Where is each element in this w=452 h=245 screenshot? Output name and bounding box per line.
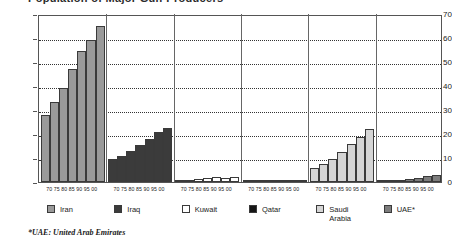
legend-swatch-icon — [316, 205, 324, 213]
bar — [50, 102, 59, 182]
bar — [396, 180, 405, 182]
x-tick-label-group: 70 75 80 85 90 95 00 — [376, 186, 440, 192]
bar — [298, 180, 307, 182]
bar — [377, 180, 386, 182]
bar — [279, 180, 288, 182]
y-tick-mark — [33, 183, 37, 184]
bar — [203, 178, 212, 182]
x-tick-label-group: 70 75 80 85 90 95 00 — [174, 186, 238, 192]
legend-label: Kuwait — [195, 205, 218, 214]
legend-item-kuwait[interactable]: Kuwait — [182, 205, 218, 214]
group-separator — [308, 14, 309, 182]
group-separator — [174, 14, 175, 182]
bar — [212, 177, 221, 182]
legend-item-iran[interactable]: Iran — [47, 205, 73, 214]
legend-label: Saudi Arabia — [329, 205, 351, 223]
bar — [145, 139, 154, 182]
bar — [288, 180, 297, 182]
bar — [163, 128, 172, 182]
bar — [347, 144, 356, 182]
bar — [221, 178, 230, 182]
y-tick-mark — [33, 15, 37, 16]
bar — [184, 180, 193, 182]
bar — [405, 179, 414, 182]
bar — [194, 179, 203, 182]
bar — [86, 40, 95, 182]
x-tick-label-group: 70 75 80 85 90 95 00 — [309, 186, 373, 192]
bar — [41, 115, 50, 182]
y-tick-mark — [33, 159, 37, 160]
y-tick-mark — [33, 87, 37, 88]
bar — [135, 145, 144, 182]
bar — [59, 88, 68, 182]
bar — [319, 164, 328, 182]
bar — [386, 180, 395, 182]
legend-item-saudi-arabia[interactable]: Saudi Arabia — [316, 205, 351, 223]
legend-swatch-icon — [114, 205, 122, 213]
plot-area — [38, 15, 442, 183]
bar — [68, 69, 77, 182]
page-title: Population of Major Gulf Producers — [28, 0, 223, 4]
bar — [154, 132, 163, 182]
bar — [328, 159, 337, 182]
group-separator — [106, 14, 107, 182]
bar — [270, 180, 279, 182]
y-tick-mark — [33, 135, 37, 136]
bar — [126, 151, 135, 182]
bar — [96, 26, 105, 182]
legend-swatch-icon — [182, 205, 190, 213]
group-separator — [376, 14, 377, 182]
bar — [365, 129, 374, 182]
legend-label: Iran — [60, 205, 73, 214]
bar — [414, 178, 423, 182]
group-separator — [241, 14, 242, 182]
legend-label: Qatar — [262, 205, 281, 214]
bar — [243, 180, 252, 182]
legend-item-qatar[interactable]: Qatar — [249, 205, 281, 214]
legend-item-iraq[interactable]: Iraq — [114, 205, 140, 214]
bar — [77, 51, 86, 182]
bar — [356, 137, 365, 182]
bar — [423, 176, 432, 182]
legend-label: UAE* — [397, 205, 415, 214]
legend-swatch-icon — [47, 205, 55, 213]
x-tick-label-group: 70 75 80 85 90 95 00 — [107, 186, 171, 192]
legend-swatch-icon — [249, 205, 257, 213]
bar — [175, 180, 184, 182]
bar — [117, 156, 126, 182]
bar — [108, 159, 117, 182]
x-tick-label-group: 70 75 80 85 90 95 00 — [242, 186, 306, 192]
chart-legend: IranIraqKuwaitQatarSaudi ArabiaUAE* — [0, 198, 452, 224]
footnote: *UAE: United Arab Emirates — [28, 228, 125, 237]
y-tick-mark — [33, 39, 37, 40]
bar — [432, 175, 441, 182]
bar — [310, 168, 319, 182]
y-tick-mark — [33, 111, 37, 112]
y-tick-mark — [33, 63, 37, 64]
bar — [261, 180, 270, 182]
legend-swatch-icon — [384, 205, 392, 213]
bar — [252, 180, 261, 182]
legend-label: Iraq — [127, 205, 140, 214]
bar — [337, 152, 346, 182]
legend-item-uae-[interactable]: UAE* — [384, 205, 415, 214]
bar — [230, 177, 239, 182]
x-tick-label-group: 70 75 80 85 90 95 00 — [40, 186, 104, 192]
bar-chart: Million 010203040506070 70 75 80 85 90 9… — [0, 5, 452, 195]
